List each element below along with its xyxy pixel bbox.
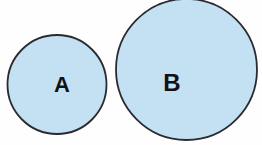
circle-b-label: B xyxy=(163,69,180,96)
diagram-canvas: A B xyxy=(0,0,262,145)
shape-group-circle-a[interactable]: A xyxy=(8,35,107,134)
circles-diagram-svg: A B xyxy=(0,0,262,145)
circle-b-shape[interactable] xyxy=(116,0,257,140)
circle-a-label: A xyxy=(54,72,70,97)
shape-group-circle-b[interactable]: B xyxy=(116,0,257,140)
